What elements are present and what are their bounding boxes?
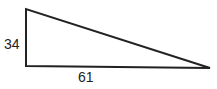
horizontal-side-label: 61 [78,69,94,85]
right-triangle [26,9,210,68]
triangle-diagram: 34 61 [0,0,217,89]
vertical-side-label: 34 [4,36,20,52]
